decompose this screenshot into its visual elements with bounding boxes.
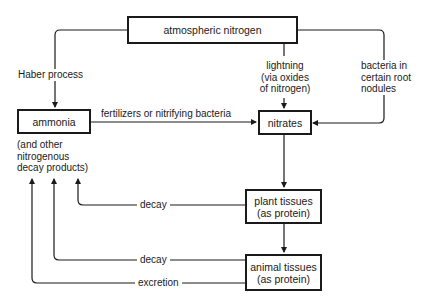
excretion-arrow xyxy=(32,179,245,283)
plant-tissues-label: plant tissues (as protein) xyxy=(254,195,312,219)
animal-tissues-label: animal tissues (as protein) xyxy=(250,261,317,285)
atmospheric-nitrogen-box: atmospheric nitrogen xyxy=(127,16,298,44)
root-bacteria-label: bacteria in certain root nodules xyxy=(360,60,412,95)
lightning-label: lightning (via oxides of nitrogen) xyxy=(254,60,316,95)
excretion-label: excretion xyxy=(135,277,182,289)
animal-tissues-box: animal tissues (as protein) xyxy=(245,254,322,291)
animal-decay-arrow xyxy=(54,179,245,260)
animal-decay-label: decay xyxy=(137,254,170,266)
haber-process-label: Haber process xyxy=(18,69,83,81)
fertilizers-label: fertilizers or nitrifying bacteria xyxy=(101,108,231,120)
nitrates-box: nitrates xyxy=(258,110,312,135)
ammonia-note: (and other nitrogenous decay products) xyxy=(17,139,88,174)
plant-decay-label: decay xyxy=(137,199,170,211)
plant-tissues-box: plant tissues (as protein) xyxy=(245,189,322,224)
atmospheric-nitrogen-label: atmospheric nitrogen xyxy=(163,24,261,36)
ammonia-label: ammonia xyxy=(32,116,75,128)
ammonia-box: ammonia xyxy=(17,109,91,134)
nitrates-label: nitrates xyxy=(268,117,302,129)
